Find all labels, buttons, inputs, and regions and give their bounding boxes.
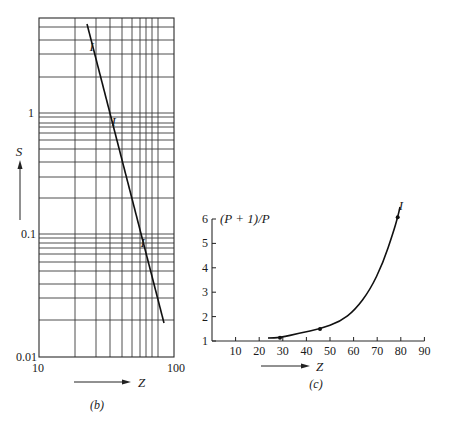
c-curve-end-label: I (398, 198, 404, 213)
c-ytick-label: 5 (202, 236, 208, 250)
b-marker-label: I (111, 114, 117, 129)
figure: III 1 0.1 0.01 10 100 S Z (b) 1020304050… (0, 0, 452, 422)
c-xtick-label: 30 (277, 344, 289, 358)
c-xtick-label: 70 (371, 344, 383, 358)
b-xtick-100: 100 (167, 361, 185, 375)
chart-b-frame (39, 18, 174, 357)
c-x-arrow-icon (261, 364, 310, 369)
b-ytick-1: 1 (28, 106, 34, 120)
c-data-curve (268, 207, 400, 338)
chart-b-loglog: III 1 0.1 0.01 10 100 S Z (b) (16, 18, 185, 412)
b-marker-label: I (140, 235, 146, 250)
c-ytick-label: 6 (202, 212, 208, 226)
c-data-point (318, 327, 322, 331)
figure-svg: III 1 0.1 0.01 10 100 S Z (b) 1020304050… (0, 0, 452, 422)
b-x-arrow-icon (74, 380, 131, 385)
c-xtick-label: 10 (230, 344, 242, 358)
b-marker-label: I (89, 39, 95, 54)
c-xtick-label: 20 (253, 344, 265, 358)
c-ylabel: (P + 1)/P (220, 211, 270, 226)
c-xtick-label: 60 (348, 344, 360, 358)
b-xtick-10: 10 (32, 361, 44, 375)
b-caption: (b) (90, 398, 104, 412)
c-data-point (278, 336, 282, 340)
chart-c-linear: 102030405060708090 123456 (P + 1)/P I Z … (202, 198, 430, 391)
c-x-tick-labels: 102030405060708090 (230, 344, 431, 358)
b-xlabel-Z: Z (138, 375, 146, 390)
c-caption: (c) (309, 377, 322, 391)
c-xtick-label: 50 (324, 344, 336, 358)
c-xlabel-Z: Z (316, 359, 324, 374)
c-xtick-label: 80 (395, 344, 407, 358)
c-xtick-label: 40 (300, 344, 312, 358)
b-ylabel-S: S (16, 144, 23, 159)
chart-b-gridlines (39, 18, 174, 357)
c-ytick-label: 2 (202, 310, 208, 324)
c-ytick-label: 3 (202, 285, 208, 299)
c-xtick-label: 90 (418, 344, 430, 358)
c-ytick-label: 1 (202, 334, 208, 348)
c-y-tick-labels: 123456 (202, 212, 208, 348)
b-ytick-0.1: 0.1 (21, 227, 36, 241)
c-data-point (396, 215, 400, 219)
b-y-arrow-icon (18, 160, 23, 220)
c-ytick-label: 4 (202, 261, 208, 275)
c-ticks (212, 219, 424, 341)
